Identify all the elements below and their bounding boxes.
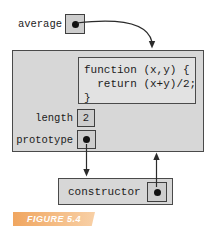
average-pointer-slot (65, 14, 85, 34)
code-line: return (x+y)/2; (84, 77, 195, 91)
constructor-pointer-slot (147, 182, 167, 202)
arrowhead-up-icon (153, 153, 159, 161)
function-code-box: function (x,y) { return (x+y)/2; } (78, 57, 196, 104)
prototype-pointer-slot (77, 130, 96, 149)
prototype-property-label: prototype (0, 133, 73, 147)
code-line: } (84, 91, 195, 105)
arrowhead-down-icon (83, 169, 89, 177)
code-line: function (x,y) { (84, 63, 195, 77)
arrowhead-down-icon (149, 41, 155, 49)
pointer-dot-icon (154, 189, 161, 196)
length-property-label: length (0, 111, 73, 125)
length-value-slot: 2 (77, 109, 95, 127)
constructor-label: constructor (68, 186, 141, 198)
pointer-dot-icon (72, 21, 79, 28)
arrow-average-to-function-object (77, 21, 155, 48)
figure-caption: FIGURE 5.4 (13, 212, 95, 226)
average-variable-label: average (0, 17, 62, 31)
figure-5-4-diagram: average function (x,y) { return (x+y)/2;… (0, 0, 218, 233)
pointer-dot-icon (83, 136, 90, 143)
constructor-object-box: constructor (58, 178, 173, 205)
